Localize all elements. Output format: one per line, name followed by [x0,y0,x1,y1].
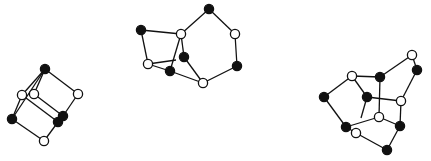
white-vertex [143,59,152,68]
graph-right [319,50,421,154]
graph-edge [209,9,235,34]
black-vertex [412,65,421,74]
graph-edge [380,55,412,77]
white-vertex [198,78,207,87]
graph-edge [324,97,346,127]
white-vertex [29,89,38,98]
graph-edge [356,133,387,150]
graph-diagram-canvas [0,0,431,161]
graph-edge [181,9,209,34]
black-vertex [382,145,391,154]
black-vertex [395,121,404,130]
graph-edge [379,77,380,117]
white-vertex [230,29,239,38]
graph-edge [45,69,78,94]
graph-left [7,64,82,145]
white-vertex [396,96,405,105]
graph-edge [324,76,352,97]
black-vertex [341,122,350,131]
black-vertex [58,111,67,120]
black-vertex [204,4,213,13]
black-vertex [136,25,145,34]
white-vertex [73,89,82,98]
graph-edge [170,34,181,71]
graph-edge [12,119,44,141]
black-vertex [375,72,384,81]
black-vertex [319,92,328,101]
graph-edge [34,94,63,116]
black-vertex [40,64,49,73]
black-vertex [179,52,188,61]
black-vertex [7,114,16,123]
black-vertex [362,92,371,101]
graph-edge [203,66,237,83]
white-vertex [39,136,48,145]
white-vertex [176,29,185,38]
white-vertex [407,50,416,59]
white-vertex [374,112,383,121]
white-vertex [351,128,360,137]
white-vertex [347,71,356,80]
graph-middle [136,4,241,87]
white-vertex [17,90,26,99]
black-vertex [232,61,241,70]
black-vertex [165,66,174,75]
graph-edge [141,30,181,34]
